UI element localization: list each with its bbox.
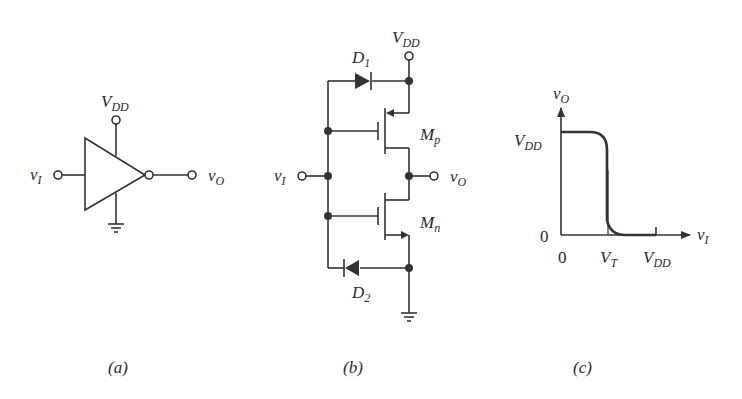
panel-b: VDD D1 Mp Mn D2 vI vO — [274, 28, 467, 321]
label-mn: Mn — [419, 213, 440, 235]
label-vi: vI — [274, 166, 287, 188]
label-d1: D1 — [351, 48, 370, 70]
panel-a: VDD vI vO — [30, 92, 225, 232]
diode-d1 — [355, 72, 371, 90]
output-wire — [153, 171, 196, 179]
label-mp: Mp — [419, 125, 440, 147]
label-vo: vO — [450, 167, 467, 189]
y-axis-label: vO — [553, 84, 570, 106]
label-d2: D2 — [351, 283, 370, 305]
input-wire — [54, 171, 85, 179]
output-terminal — [409, 172, 438, 180]
x-axis-label: vI — [697, 225, 710, 247]
input-terminal — [298, 172, 328, 180]
transistor-mn — [328, 193, 409, 268]
y-tick-vdd: VDD — [514, 131, 542, 153]
inverter-triangle — [85, 138, 145, 210]
vdd-terminal — [405, 52, 413, 81]
ground-symbol — [108, 193, 124, 232]
junction-dots — [324, 77, 413, 272]
panel-c: vO vI VDD 0 0 VT VDD — [514, 84, 710, 270]
label-vi: vI — [30, 165, 43, 187]
diode-d2 — [344, 259, 359, 277]
caption-a: (a) — [108, 358, 128, 377]
x-tick-vt: VT — [600, 248, 618, 270]
y-tick-zero: 0 — [540, 227, 549, 246]
supply-wire — [112, 116, 120, 156]
transistor-mp — [328, 108, 409, 200]
caption-c: (c) — [573, 358, 592, 377]
caption-b: (b) — [343, 358, 363, 377]
label-vdd: VDD — [392, 28, 420, 50]
label-vdd: VDD — [101, 92, 129, 114]
label-vo: vO — [208, 166, 225, 188]
ground-symbol — [401, 268, 417, 321]
x-tick-vdd-label: VDD — [643, 248, 671, 270]
figure-canvas: VDD vI vO — [0, 0, 742, 399]
x-tick-zero: 0 — [558, 248, 567, 267]
